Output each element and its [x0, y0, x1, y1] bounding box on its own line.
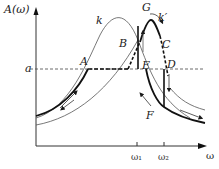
point-D: D	[167, 59, 176, 70]
x-axis-arrow-icon	[198, 143, 207, 149]
x-axis-label: ω	[206, 151, 214, 161]
curve-k-label: k	[96, 15, 103, 26]
curve-k-prime-label: k′	[158, 12, 167, 23]
y-axis-arrow-icon	[34, 7, 39, 15]
point-A: A	[80, 56, 88, 67]
curve-outer	[36, 40, 138, 125]
tick-label-w1: ω₁	[131, 153, 142, 162]
y-axis-label: A(ω)	[4, 4, 30, 15]
diagram: A(ω) a k A B G k′ C E D F ω₁ ω₂ ω	[0, 0, 219, 169]
point-F: F	[146, 110, 154, 121]
arrow-left-f	[141, 94, 151, 106]
point-C: C	[162, 39, 170, 50]
point-B: B	[119, 38, 127, 49]
diagram-canvas	[0, 0, 219, 169]
point-G: G	[142, 2, 151, 13]
tick-label-w2: ω₂	[158, 153, 169, 162]
level-a-label: a	[25, 63, 32, 74]
curve-right-branch	[146, 69, 205, 123]
point-E: E	[142, 60, 150, 71]
